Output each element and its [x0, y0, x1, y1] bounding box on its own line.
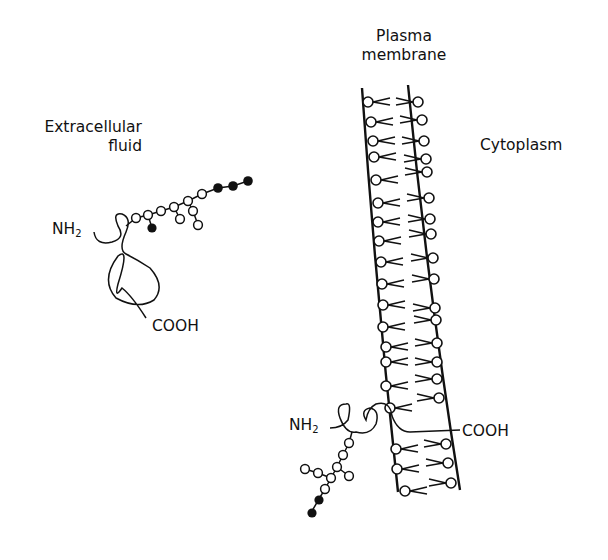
inner-leaflet-lipids: [396, 97, 456, 488]
sugar-residue-open: [157, 207, 166, 216]
sugar-residue-filled: [213, 183, 223, 193]
sugar-residue-open: [339, 451, 348, 460]
sugar-residue-filled: [314, 495, 323, 504]
sugar-residue-filled: [147, 223, 156, 232]
sugar-residue-open: [176, 215, 185, 224]
sugar-residue-open: [333, 463, 342, 472]
sugar-residue-open: [132, 214, 141, 223]
diagram-canvas: [0, 0, 608, 560]
sugar-residue-open: [189, 207, 198, 216]
sugar-residue-filled: [228, 181, 238, 191]
sugar-residue-open: [327, 474, 336, 483]
sugar-residue-open: [170, 203, 179, 212]
lipid-bilayer: [362, 85, 460, 496]
sugar-residue-open: [301, 465, 310, 474]
free-glycoprotein: [94, 181, 248, 318]
sugar-residue-open: [184, 197, 193, 206]
sugar-residue-open: [194, 221, 203, 230]
sugar-residue-open: [314, 469, 323, 478]
sugar-residue-filled: [243, 176, 253, 186]
sugar-residue-open: [198, 190, 207, 199]
membrane-outer-line: [362, 88, 398, 492]
outer-leaflet-lipids: [363, 97, 427, 496]
membrane-inner-line: [408, 85, 460, 490]
sugar-residue-filled: [307, 508, 316, 517]
sugar-residue-open: [345, 472, 354, 481]
sugar-residue-open: [345, 439, 354, 448]
membrane-glycoprotein: [305, 403, 460, 511]
sugar-residue-open: [321, 485, 330, 494]
free-glycoprotein-sugars: [132, 176, 253, 232]
sugar-residue-open: [144, 211, 153, 220]
